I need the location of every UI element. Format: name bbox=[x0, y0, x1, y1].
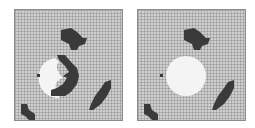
agent-marker bbox=[160, 74, 163, 77]
grid-map-left bbox=[14, 9, 123, 121]
bottom-left-obstacle bbox=[21, 104, 35, 120]
diagonal-obstacle bbox=[212, 80, 234, 110]
grid-map-right bbox=[137, 9, 246, 121]
map-shapes-right bbox=[138, 10, 245, 120]
lit-region bbox=[166, 56, 206, 96]
bottom-left-obstacle bbox=[144, 104, 158, 120]
top-obstacle bbox=[61, 28, 87, 50]
map-shapes-left bbox=[15, 10, 122, 120]
agent-marker bbox=[37, 74, 40, 77]
diagonal-obstacle bbox=[89, 80, 111, 110]
top-obstacle bbox=[184, 28, 210, 50]
